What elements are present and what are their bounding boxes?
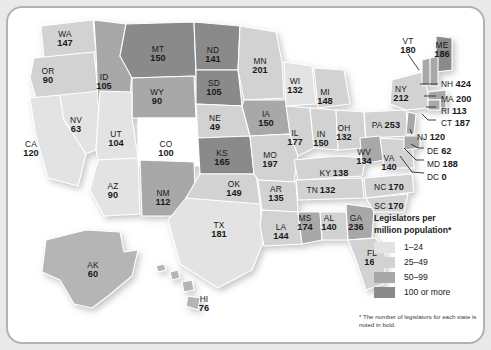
state-shape-OR (30, 52, 98, 98)
state-shape-WI (284, 62, 316, 106)
legend-item-2: 50–99 (374, 271, 480, 284)
map-stage: WA147OR90CA120NV63ID105MT150WY90UT104CO1… (8, 8, 483, 342)
legend-swatch-0 (374, 242, 395, 253)
state-shape-AK (42, 230, 138, 308)
legend-item-1: 25–49 (374, 256, 480, 269)
state-shape-ND (194, 22, 240, 70)
state-shape-KS (198, 136, 254, 174)
state-shape-MN (238, 26, 284, 100)
legend-label-3: 100 or more (404, 287, 450, 297)
state-shape-AR (258, 180, 298, 212)
state-shape-SD (196, 70, 242, 106)
state-shape-IN (310, 108, 338, 150)
legend-swatch-3 (374, 287, 395, 298)
state-shape-NE (196, 104, 250, 138)
legend-rows: 1–2425–4950–99100 or more (374, 241, 480, 299)
map-legend: Legislators per million population* 1–24… (374, 213, 480, 301)
state-shape-AL (320, 212, 348, 240)
state-shape-WY (132, 76, 196, 118)
map-footnote: * The number of legislators for each sta… (359, 313, 485, 328)
state-shape-MI (314, 68, 350, 108)
legend-label-2: 50–99 (404, 272, 428, 282)
state-shape-HI-1 (156, 264, 166, 272)
state-shape-MS (298, 212, 322, 244)
state-shape-HI-3 (182, 280, 194, 292)
state-shape-TX (168, 198, 264, 288)
map-frame: WA147OR90CA120NV63ID105MT150WY90UT104CO1… (6, 6, 485, 344)
state-shape-KY (294, 156, 366, 180)
state-shape-HI-4 (186, 296, 200, 310)
state-shape-TN (296, 178, 364, 200)
state-shape-CT (428, 100, 440, 110)
state-shape-MA (428, 90, 446, 100)
legend-title: Legislators per million population* (374, 213, 480, 236)
legend-item-3: 100 or more (374, 286, 480, 299)
legend-swatch-2 (374, 272, 395, 283)
state-shape-RI (440, 100, 446, 108)
state-shape-PA (364, 110, 408, 138)
state-shape-GA (346, 204, 374, 240)
state-shape-CO (138, 118, 200, 166)
state-shape-AZ (90, 158, 140, 216)
state-shape-HI-2 (170, 270, 180, 280)
state-shape-MT (120, 22, 196, 78)
legend-item-0: 1–24 (374, 241, 480, 254)
legend-label-1: 25–49 (404, 257, 428, 267)
legend-title-line2: million population* (374, 225, 451, 235)
legend-swatch-1 (374, 257, 395, 268)
state-shape-NH (430, 56, 438, 86)
state-shape-MO (250, 134, 298, 182)
state-shape-IA (242, 100, 290, 136)
state-shape-UT (96, 91, 138, 160)
state-shape-LA (260, 210, 302, 246)
legend-title-line1: Legislators per (374, 213, 436, 223)
legend-label-0: 1–24 (404, 242, 423, 252)
